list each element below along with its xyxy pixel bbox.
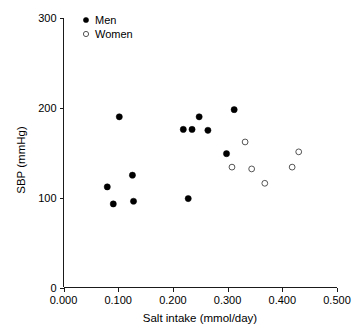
- data-point-men: [116, 114, 122, 120]
- legend-marker-women: [83, 31, 88, 36]
- y-tick-label: 100: [38, 192, 56, 204]
- data-point-women: [249, 166, 255, 172]
- x-tick-label: 0.200: [159, 294, 187, 306]
- x-tick-label: 0.000: [50, 294, 78, 306]
- legend-label-men: Men: [95, 14, 116, 26]
- plot-canvas: 0100200300 0.0000.1000.2000.3000.4000.50…: [0, 0, 358, 332]
- data-point-men: [130, 198, 136, 204]
- data-point-men: [223, 151, 229, 157]
- data-point-men: [104, 184, 110, 190]
- data-point-men: [110, 201, 116, 207]
- y-tick-label: 300: [38, 12, 56, 24]
- data-point-men: [205, 127, 211, 133]
- x-tick-label: 0.500: [323, 294, 351, 306]
- legend-label-women: Women: [95, 28, 133, 40]
- y-axis-title: SBP (mmHg): [15, 126, 27, 194]
- data-point-men: [129, 172, 135, 178]
- data-point-women: [229, 164, 235, 170]
- legend: Men Women: [83, 14, 132, 40]
- scatter-plot-figure: 0100200300 0.0000.1000.2000.3000.4000.50…: [0, 0, 358, 332]
- legend-marker-men: [83, 17, 88, 22]
- x-tick-label: 0.100: [104, 294, 132, 306]
- data-series-men: [104, 107, 237, 208]
- data-point-women: [296, 149, 302, 155]
- data-point-women: [242, 139, 248, 145]
- data-point-men: [196, 114, 202, 120]
- data-point-men: [231, 107, 237, 113]
- x-axis-title: Salt intake (mmol/day): [143, 312, 258, 324]
- x-tick-label: 0.400: [269, 294, 297, 306]
- data-point-men: [189, 126, 195, 132]
- y-tick-label: 200: [38, 102, 56, 114]
- data-point-men: [185, 195, 191, 201]
- data-point-women: [289, 164, 295, 170]
- x-tick-label: 0.300: [214, 294, 242, 306]
- y-tick-label: 0: [50, 282, 56, 294]
- x-axis-ticks: 0.0000.1000.2000.3000.4000.500: [50, 288, 351, 306]
- y-axis-ticks: 0100200300: [38, 12, 63, 294]
- data-series-women: [229, 139, 302, 186]
- data-point-women: [262, 180, 268, 186]
- data-point-men: [180, 126, 186, 132]
